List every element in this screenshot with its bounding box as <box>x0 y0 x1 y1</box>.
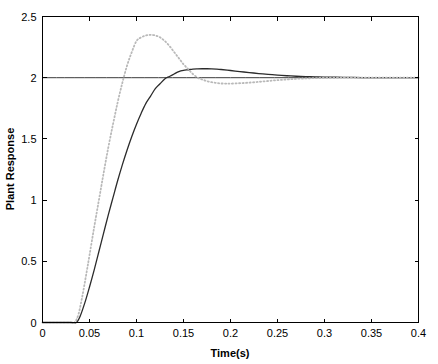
x-tick-label: 0 <box>39 327 45 339</box>
x-tick-label: 0.4 <box>411 327 426 339</box>
x-tick-label: 0.1 <box>129 327 144 339</box>
figure-canvas: 00.050.10.150.20.250.30.350.400.511.522.… <box>0 0 438 364</box>
x-tick-label: 0.3 <box>317 327 332 339</box>
y-tick-label: 0.5 <box>21 255 36 267</box>
x-tick-label: 0.2 <box>223 327 238 339</box>
y-tick-label: 1 <box>30 194 36 206</box>
y-tick-label: 1.5 <box>21 133 36 145</box>
x-axis-title: Time(s) <box>211 347 250 359</box>
y-axis-title: Plant Response <box>4 128 16 211</box>
y-tick-label: 0 <box>30 317 36 329</box>
y-tick-label: 2 <box>30 72 36 84</box>
x-tick-label: 0.35 <box>361 327 382 339</box>
y-tick-label: 2.5 <box>21 11 36 23</box>
plant-response-chart: 00.050.10.150.20.250.30.350.400.511.522.… <box>0 0 438 364</box>
x-tick-label: 0.15 <box>173 327 194 339</box>
plot-background <box>42 16 418 322</box>
x-tick-label: 0.05 <box>79 327 100 339</box>
x-tick-label: 0.25 <box>267 327 288 339</box>
